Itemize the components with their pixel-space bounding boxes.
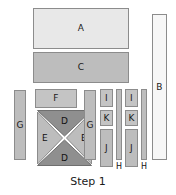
part-j-right-label: J: [130, 144, 133, 153]
part-k-left-label: K: [103, 114, 109, 123]
part-k-right[interactable]: K: [125, 110, 138, 126]
assembly-diagram: A C B G F D D E E G I: [0, 0, 176, 195]
part-g-left-label: G: [16, 121, 23, 130]
part-i-left-label: I: [105, 94, 108, 103]
part-k-right-label: K: [128, 114, 134, 123]
part-b[interactable]: B: [152, 14, 167, 160]
part-h-left-label: H: [116, 162, 122, 171]
part-h-right[interactable]: [141, 89, 147, 160]
part-b-label: B: [156, 83, 162, 92]
part-j-left-label: J: [105, 144, 108, 153]
part-i-right-label: I: [130, 94, 133, 103]
part-g-right[interactable]: G: [84, 90, 96, 160]
part-f-label: F: [53, 94, 58, 103]
part-i-right[interactable]: I: [125, 89, 138, 107]
part-k-left[interactable]: K: [100, 110, 113, 126]
part-g-right-label: G: [86, 121, 93, 130]
part-g-left[interactable]: G: [14, 90, 26, 160]
part-h-right-label: H: [141, 162, 147, 171]
part-d-top-label: D: [61, 116, 68, 126]
step-caption: Step 1: [0, 175, 176, 188]
part-i-left[interactable]: I: [100, 89, 113, 107]
part-a[interactable]: A: [33, 8, 129, 49]
part-c-label: C: [78, 63, 84, 72]
part-e-left-label: E: [42, 133, 48, 143]
part-j-left[interactable]: J: [100, 129, 113, 167]
part-j-right[interactable]: J: [125, 129, 138, 167]
part-c[interactable]: C: [33, 52, 129, 83]
part-d-bottom-label: D: [61, 153, 68, 163]
part-h-left[interactable]: [116, 89, 122, 160]
part-f[interactable]: F: [35, 89, 77, 108]
part-a-label: A: [78, 24, 84, 33]
